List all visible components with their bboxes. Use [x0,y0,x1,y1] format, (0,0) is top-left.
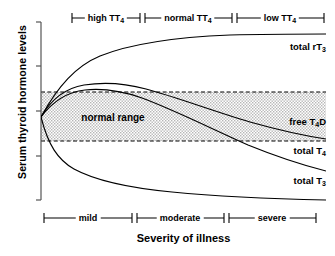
bottom-bracket-label-mild: mild [76,213,101,223]
curve-label-total-rt3: total rT3 [289,41,327,53]
curve-label-total-t4: total T4 [293,145,327,157]
top-bracket-label-normal-tt4: normal TT4 [161,13,214,24]
curve-label-free-t4d: free T4D [288,116,327,128]
top-bracket-label-low-tt4: low TT4 [261,13,299,24]
normal-range-caption: normal range [81,112,144,123]
bottom-bracket-label-moderate: moderate [157,213,204,223]
thyroid-hormone-chart: Serum thyroid hormone levels Severity of… [0,0,335,256]
top-bracket-label-high-tt4: high TT4 [85,13,127,24]
bottom-bracket-label-severe: severe [255,213,290,223]
y-axis [36,22,41,200]
curve-label-total-t3: total T3 [293,175,327,187]
